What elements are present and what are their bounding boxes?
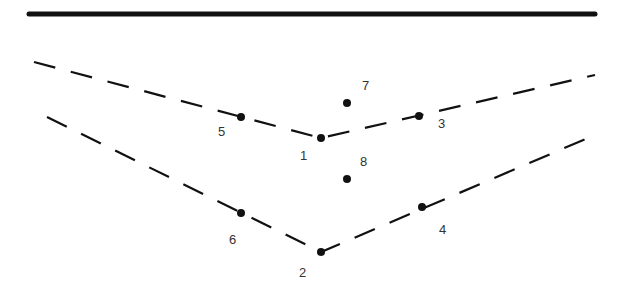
point-marker-6 (237, 209, 245, 217)
point-label-4: 4 (439, 222, 446, 237)
point-label-1: 1 (300, 148, 307, 163)
point-marker-1 (317, 134, 325, 142)
point-labels: 12345678 (218, 78, 446, 280)
diagram-canvas: 12345678 (0, 0, 625, 297)
point-marker-7 (343, 99, 351, 107)
point-label-7: 7 (362, 78, 369, 93)
point-label-3: 3 (438, 116, 445, 131)
point-marker-8 (343, 175, 351, 183)
point-marker-3 (415, 112, 423, 120)
point-label-8: 8 (360, 154, 367, 169)
point-marker-2 (317, 248, 325, 256)
point-label-6: 6 (229, 232, 236, 247)
upper-dashed-reflector (34, 62, 595, 138)
point-marker-4 (418, 203, 426, 211)
point-marker-5 (237, 113, 245, 121)
point-label-5: 5 (218, 124, 225, 139)
point-label-2: 2 (299, 265, 306, 280)
